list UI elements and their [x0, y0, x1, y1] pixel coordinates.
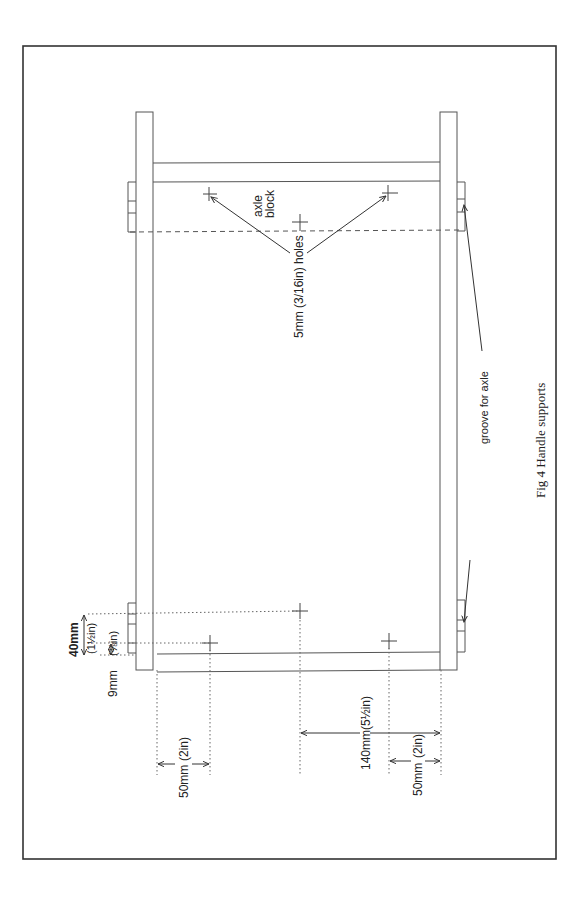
figure-border: [23, 46, 556, 859]
hole-cross-icon: [382, 185, 398, 201]
dim-50-left-imperial: (2in): [177, 737, 191, 761]
dim-40-metric: 40mm: [67, 622, 81, 657]
left-rail: [136, 112, 153, 670]
dimension-arrows: [84, 615, 440, 764]
dim-140-metric: 140mm: [359, 730, 373, 770]
axle-block-top-left: [128, 182, 136, 232]
hole-cross-icon: [203, 187, 217, 201]
axle-block-bottom-right: [457, 600, 465, 652]
bottom-crosspiece: [157, 652, 440, 672]
dim-9-metric: 9mm: [106, 670, 120, 697]
top-crosspiece: [153, 162, 440, 182]
axle-centerline: [130, 230, 460, 232]
hole-cross-icon: [292, 214, 308, 231]
dim-50-right-metric: 50mm: [411, 763, 425, 796]
groove-label: groove for axle: [478, 371, 490, 444]
holes-label: 5mm (3/16in) holes: [292, 235, 306, 338]
hole-cross-icon: [381, 633, 397, 649]
dim-40-imperial: (1½in): [85, 623, 97, 654]
dim-140-imperial: (5½in): [359, 696, 373, 730]
dim-9-imperial: (⅜in): [107, 631, 119, 656]
dim-50-left-metric: 50mm: [177, 765, 191, 798]
axle-block-label-line2: block: [263, 189, 277, 218]
extension-lines: [88, 611, 441, 775]
axle-block-bottom-left: [128, 603, 136, 653]
right-rail: [440, 112, 457, 670]
figure-caption: Fig 4 Handle supports: [533, 383, 548, 498]
dim-50-right-imperial: (2in): [411, 734, 425, 758]
diagram-canvas: 40mm (1½in) 9mm (⅜in) 50mm (2in) 140mm (…: [0, 0, 585, 909]
handle-supports-diagram: 40mm (1½in) 9mm (⅜in) 50mm (2in) 140mm (…: [0, 0, 585, 909]
